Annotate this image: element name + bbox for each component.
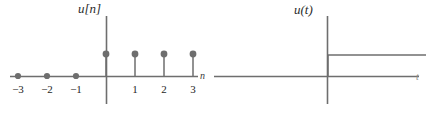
tick-label-n-3: 3 bbox=[187, 84, 199, 95]
tick-label-n-minus-2: −2 bbox=[39, 84, 55, 95]
sample-dot-n-minus-3 bbox=[15, 73, 21, 79]
sample-dot-n-3 bbox=[190, 51, 197, 58]
discrete-unit-step-plot: u[n] n −3 −2 −1 1 2 3 bbox=[0, 0, 213, 113]
sample-dot-n-0 bbox=[103, 51, 110, 58]
discrete-plot-graphics bbox=[0, 0, 213, 113]
discrete-y-axis-label: u[n] bbox=[78, 2, 101, 15]
continuous-y-axis-label: u(t) bbox=[294, 3, 313, 16]
tick-label-n-2: 2 bbox=[158, 84, 170, 95]
tick-label-n-minus-1: −1 bbox=[68, 84, 84, 95]
continuous-plot-graphics bbox=[213, 0, 426, 113]
tick-label-n-minus-3: −3 bbox=[10, 84, 26, 95]
sample-dot-n-minus-1 bbox=[73, 73, 79, 79]
continuous-unit-step-plot: u(t) t bbox=[213, 0, 426, 113]
sample-dot-n-minus-2 bbox=[44, 73, 50, 79]
sample-dot-n-2 bbox=[161, 51, 168, 58]
sample-dot-n-1 bbox=[132, 51, 139, 58]
continuous-x-axis-label: t bbox=[416, 72, 419, 82]
figure-canvas: u[n] n −3 −2 −1 1 2 3 u(t) t bbox=[0, 0, 426, 113]
tick-label-n-1: 1 bbox=[129, 84, 141, 95]
discrete-x-axis-label: n bbox=[200, 71, 205, 81]
